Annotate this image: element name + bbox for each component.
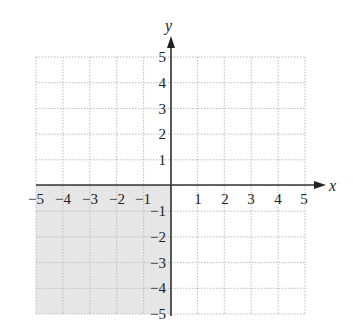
y-tick: 4 (159, 75, 167, 91)
y-tick: 1 (159, 152, 167, 168)
x-tick: −5 (28, 191, 44, 207)
coordinate-plane: x y −5 −4 −3 −2 −1 1 2 3 4 5 5 4 3 2 1 −… (0, 0, 353, 334)
x-tick: −1 (135, 191, 151, 207)
y-axis-arrow-icon (167, 36, 175, 48)
y-tick: 3 (159, 101, 167, 117)
y-tick: 2 (159, 126, 167, 142)
y-tick: −1 (150, 203, 166, 219)
x-tick: 4 (274, 191, 282, 207)
x-tick: 1 (194, 191, 202, 207)
x-tick: −3 (82, 191, 98, 207)
x-tick-labels-positive: 1 2 3 4 5 (194, 191, 308, 207)
y-tick: −2 (150, 229, 166, 245)
y-tick: −4 (150, 280, 166, 296)
y-tick: −3 (150, 255, 166, 271)
y-tick: −5 (150, 306, 166, 322)
x-tick: −4 (55, 191, 71, 207)
x-axis-label: x (328, 177, 336, 194)
y-tick: 5 (159, 49, 167, 65)
x-axis-arrow-icon (314, 181, 326, 189)
x-tick: −2 (109, 191, 125, 207)
y-tick-labels-positive: 5 4 3 2 1 (159, 49, 167, 168)
x-tick: 5 (300, 191, 308, 207)
x-tick: 3 (247, 191, 255, 207)
x-tick: 2 (221, 191, 229, 207)
y-axis-label: y (163, 17, 173, 35)
